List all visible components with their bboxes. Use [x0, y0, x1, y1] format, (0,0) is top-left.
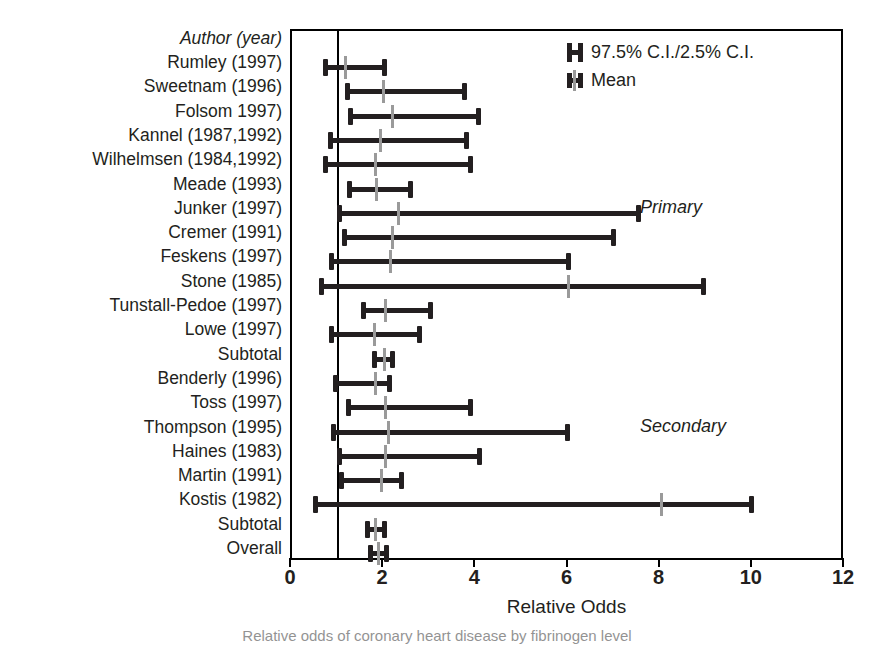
ci-ibar-icon: [565, 41, 585, 63]
ci-mean-marker: [375, 178, 378, 201]
ci-bar: [339, 454, 480, 459]
ci-cap-lower: [348, 108, 353, 125]
ci-bar: [333, 430, 568, 435]
row-label: Junker (1997): [174, 200, 282, 218]
ci-mean-marker: [382, 80, 385, 103]
ci-cap-upper: [566, 253, 571, 270]
ci-cap-upper: [390, 351, 395, 368]
row-label: Folsom 1997): [175, 103, 282, 121]
ci-cap-lower: [337, 205, 342, 222]
ci-bar: [347, 89, 465, 94]
row-label: Subtotal: [218, 516, 282, 534]
row-label: Wilhelmsen (1984,1992): [92, 151, 282, 169]
ci-mean-marker: [374, 153, 377, 176]
ci-mean-marker: [391, 226, 394, 249]
legend: 97.5% C.I./2.5% C.I. Mean: [565, 38, 835, 94]
ci-bar-row: [292, 373, 841, 393]
section-note: Primary: [640, 197, 702, 218]
ci-cap-lower: [365, 521, 370, 538]
row-label: Rumley (1997): [167, 54, 282, 72]
row-label-column: Author (year)Rumley (1997)Sweetnam (1996…: [0, 0, 286, 560]
x-axis-tick-label: 12: [832, 566, 854, 589]
mean-ibar-icon: [565, 69, 585, 91]
ci-cap-upper: [477, 448, 482, 465]
ci-cap-lower: [331, 424, 336, 441]
ci-bar-row: [292, 203, 841, 223]
ci-bar: [330, 138, 467, 143]
ci-cap-upper: [468, 399, 473, 416]
ci-mean-marker: [374, 372, 377, 395]
ci-cap-upper: [462, 83, 467, 100]
ci-cap-upper: [428, 302, 433, 319]
ci-bar-row: [292, 324, 841, 344]
row-label: Kostis (1982): [179, 491, 282, 509]
ci-mean-marker: [384, 396, 387, 419]
row-label: Stone (1985): [181, 273, 282, 291]
ci-cap-lower: [323, 59, 328, 76]
section-note: Secondary: [640, 416, 726, 437]
ci-cap-lower: [372, 351, 377, 368]
ci-cap-upper: [387, 375, 392, 392]
x-axis-tick-label: 0: [284, 566, 295, 589]
ci-bar: [331, 259, 568, 264]
ci-bar-row: [292, 227, 841, 247]
ci-bar-row: [292, 276, 841, 296]
ci-cap-upper: [749, 496, 754, 513]
ci-mean-marker: [397, 202, 400, 225]
ci-bar: [335, 381, 390, 386]
ci-mean-marker: [384, 299, 387, 322]
x-axis-tick-label: 8: [653, 566, 664, 589]
ci-cap-lower: [328, 132, 333, 149]
row-label: Tunstall-Pedoe (1997): [109, 297, 282, 315]
ci-cap-lower: [329, 253, 334, 270]
x-axis-tick-label: 2: [377, 566, 388, 589]
ci-bar-row: [292, 422, 841, 442]
row-label: Haines (1983): [172, 443, 282, 461]
ci-mean-marker: [383, 348, 386, 371]
ci-bar-row: [292, 300, 841, 320]
row-label: Benderly (1996): [157, 370, 282, 388]
ci-mean-marker: [387, 421, 390, 444]
row-label: Subtotal: [218, 346, 282, 364]
ci-cap-upper: [382, 59, 387, 76]
ci-cap-upper: [565, 424, 570, 441]
ci-bar: [325, 65, 385, 70]
ci-cap-lower: [339, 472, 344, 489]
ci-bar-row: [292, 106, 841, 126]
ci-bar: [350, 114, 479, 119]
ci-cap-upper: [408, 181, 413, 198]
ci-mean-marker: [567, 275, 570, 298]
legend-label-mean: Mean: [591, 70, 636, 91]
ci-cap-upper: [382, 521, 387, 538]
ci-cap-lower: [313, 496, 318, 513]
ci-mean-marker: [389, 250, 392, 273]
ci-cap-upper: [468, 156, 473, 173]
ci-mean-marker: [384, 445, 387, 468]
ci-bar: [349, 187, 412, 192]
ci-bar-row: [292, 494, 841, 514]
ci-cap-upper: [464, 132, 469, 149]
x-axis-tick-label: 4: [469, 566, 480, 589]
x-axis-title: Relative Odds: [290, 596, 843, 618]
row-label: Toss (1997): [191, 394, 282, 412]
row-label: Feskens (1997): [160, 248, 282, 266]
ci-cap-lower: [323, 156, 328, 173]
ci-cap-lower: [333, 375, 338, 392]
row-label: Lowe (1997): [185, 321, 282, 339]
ci-mean-marker: [374, 518, 377, 541]
ci-bar: [363, 308, 432, 313]
ci-bar: [348, 405, 471, 410]
ci-cap-upper: [399, 472, 404, 489]
ci-bar-row: [292, 154, 841, 174]
x-axis-tick-label: 10: [740, 566, 762, 589]
ci-bar-row: [292, 251, 841, 271]
legend-item-mean: Mean: [565, 66, 835, 94]
ci-cap-lower: [319, 278, 324, 295]
ci-cap-lower: [337, 448, 342, 465]
ci-cap-lower: [345, 83, 350, 100]
ci-mean-marker: [373, 323, 376, 346]
ci-cap-lower: [346, 399, 351, 416]
ci-bar-row: [292, 179, 841, 199]
x-axis-tick-label: 6: [561, 566, 572, 589]
plot-area: [290, 29, 843, 560]
